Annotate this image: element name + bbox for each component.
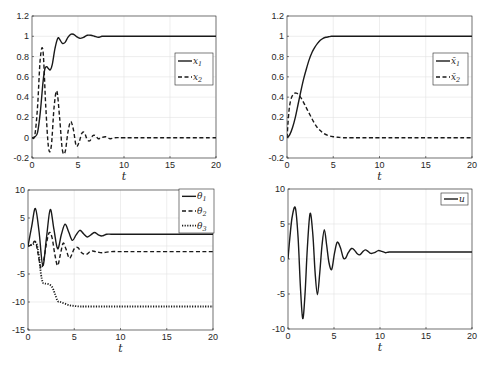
- x-tick-label: 0: [284, 160, 289, 170]
- subplot-bottom-right: 05101520-10-50510tu: [272, 184, 477, 354]
- y-tick-label: 1: [24, 31, 29, 41]
- x-tick-label: 0: [285, 331, 290, 341]
- y-tick-label: 1.2: [271, 11, 284, 21]
- x-tick-label: 20: [208, 332, 218, 342]
- x-tick-label: 5: [331, 331, 336, 341]
- y-tick-label: 0: [24, 133, 29, 143]
- legend: θ1θ2θ3: [179, 189, 214, 233]
- y-tick-label: 10: [15, 185, 25, 195]
- y-tick-label: -5: [17, 269, 25, 279]
- y-tick-label: 0: [20, 241, 25, 251]
- x-tick-label: 15: [421, 331, 431, 341]
- x-tick-label: 0: [29, 160, 34, 170]
- legend: x1x2: [175, 53, 213, 85]
- x-tick-label: 10: [374, 160, 384, 170]
- x-tick-label: 15: [421, 160, 431, 170]
- y-tick-label: 0.2: [16, 112, 29, 122]
- figure: 05101520-0.200.20.40.60.811.2tx1x2 05101…: [0, 0, 487, 367]
- subplot-bottom-left: 05101520-15-10-50510tθ1θ2θ3: [12, 185, 218, 355]
- x-axis-label: t: [122, 170, 127, 183]
- x-tick-label: 5: [72, 332, 77, 342]
- y-tick-label: -5: [277, 289, 285, 299]
- y-tick-label: 0.8: [16, 52, 29, 62]
- x-tick-label: 10: [375, 331, 385, 341]
- subplot-top-right: 05101520-0.200.20.40.60.811.2tx̄1x̄2: [268, 11, 477, 183]
- y-tick-label: 5: [280, 219, 285, 229]
- y-tick-label: -0.2: [268, 153, 284, 163]
- x-tick-label: 20: [211, 160, 221, 170]
- legend: x̄1x̄2: [433, 53, 468, 85]
- legend-label: u: [459, 194, 465, 204]
- x-tick-label: 20: [467, 160, 477, 170]
- legend: u: [441, 193, 468, 205]
- y-tick-label: 10: [275, 184, 285, 194]
- subplot-top-left: 05101520-0.200.20.40.60.811.2tx1x2: [13, 11, 221, 183]
- y-tick-label: 0.6: [271, 72, 284, 82]
- x-tick-label: 10: [119, 160, 129, 170]
- y-tick-label: 5: [20, 213, 25, 223]
- y-tick-label: 0.2: [271, 112, 284, 122]
- y-tick-label: 1: [279, 31, 284, 41]
- x-axis-label: t: [378, 341, 383, 354]
- y-tick-label: -15: [12, 325, 25, 335]
- y-tick-label: -10: [12, 297, 25, 307]
- x-tick-label: 15: [165, 160, 175, 170]
- y-tick-label: 0: [279, 133, 284, 143]
- x-tick-label: 5: [75, 160, 80, 170]
- x-axis-label: t: [118, 342, 123, 355]
- x-tick-label: 15: [162, 332, 172, 342]
- y-tick-label: 0.4: [16, 92, 29, 102]
- x-tick-label: 5: [331, 160, 336, 170]
- y-tick-label: -10: [272, 324, 285, 334]
- y-tick-label: 0.8: [271, 52, 284, 62]
- x-tick-label: 20: [467, 331, 477, 341]
- y-tick-label: 0.4: [271, 92, 284, 102]
- x-tick-label: 10: [115, 332, 125, 342]
- y-tick-label: 1.2: [16, 11, 29, 21]
- y-tick-label: -0.2: [13, 153, 29, 163]
- x-axis-label: t: [377, 170, 382, 183]
- y-tick-label: 0.6: [16, 72, 29, 82]
- x-tick-label: 0: [25, 332, 30, 342]
- y-tick-label: 0: [280, 254, 285, 264]
